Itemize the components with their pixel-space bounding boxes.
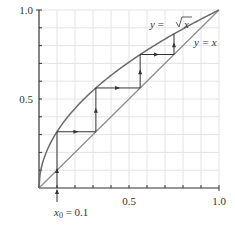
- x-tick-label-half: 0.5: [122, 195, 136, 207]
- arrow-right-icon: [73, 130, 78, 134]
- x0-label: x0 = 0.1: [53, 206, 88, 220]
- y-tick-label-half: 0.5: [19, 93, 33, 105]
- start-arrow-icon: [55, 189, 59, 202]
- arrow-up-icon: [138, 69, 142, 74]
- identity-label: y = x: [193, 36, 217, 48]
- y-tick-label-1: 1.0: [19, 4, 33, 16]
- svg-text:x0 = 0.1: x0 = 0.1: [53, 206, 88, 220]
- arrow-right-icon: [115, 86, 120, 90]
- arrow-right-icon: [154, 53, 159, 57]
- cobweb-chart: 1.0 0.5 0.5 1.0 y = x y = x x0 = 0.1: [0, 0, 235, 229]
- arrow-up-icon: [172, 42, 176, 47]
- x-tick-label-1: 1.0: [212, 195, 226, 207]
- arrow-up-icon: [94, 108, 98, 113]
- svg-text:y =: y =: [149, 18, 164, 30]
- svg-text:x: x: [183, 18, 189, 30]
